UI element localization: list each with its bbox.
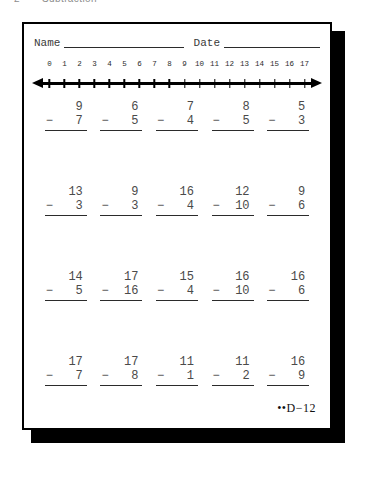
minuend: 17 <box>100 270 142 284</box>
problem-cell[interactable]: 11−1 <box>149 355 205 440</box>
minuend: 17 <box>45 355 87 369</box>
problem-cell[interactable]: 12−10 <box>205 185 261 270</box>
problem-cell[interactable]: 15−4 <box>149 270 205 355</box>
number-line-bar <box>42 82 312 85</box>
minus-operator: − <box>267 369 275 384</box>
minuend: 17 <box>100 355 142 369</box>
number-line-label: 0 <box>47 60 52 68</box>
problem-cell[interactable]: 6−5 <box>94 100 150 185</box>
subtraction-problem: 5−3 <box>267 100 309 131</box>
problem-cell[interactable]: 16−6 <box>260 270 316 355</box>
subtrahend-row: −4 <box>156 114 198 131</box>
page-header-title: Subtraction <box>42 0 97 4</box>
date-label: Date <box>194 37 220 49</box>
subtraction-problem: 11−1 <box>156 355 198 386</box>
subtrahend: 3 <box>131 199 138 214</box>
number-line-tick <box>64 79 65 88</box>
subtrahend: 6 <box>298 284 305 299</box>
subtrahend: 2 <box>242 369 249 384</box>
minuend: 6 <box>100 100 142 114</box>
subtrahend-row: −7 <box>45 369 87 386</box>
minus-operator: − <box>45 114 53 129</box>
minuend: 11 <box>212 355 254 369</box>
subtrahend-row: −10 <box>212 284 254 301</box>
subtrahend: 5 <box>76 284 83 299</box>
number-line-tick <box>199 79 200 88</box>
problem-row: 17−717−811−111−216−9 <box>38 355 316 440</box>
minuend: 9 <box>267 185 309 199</box>
name-write-line[interactable] <box>64 36 183 48</box>
number-line-label: 6 <box>137 60 142 68</box>
subtrahend-row: −7 <box>45 114 87 131</box>
subtrahend-row: −6 <box>267 284 309 301</box>
problem-cell[interactable]: 9−3 <box>94 185 150 270</box>
subtraction-problem: 7−4 <box>156 100 198 131</box>
subtraction-problem: 14−5 <box>45 270 87 301</box>
date-write-line[interactable] <box>224 36 320 48</box>
minus-operator: − <box>100 114 108 129</box>
subtrahend-row: −4 <box>156 199 198 216</box>
number-line-tick <box>79 79 80 88</box>
problem-cell[interactable]: 5−3 <box>260 100 316 185</box>
minuend: 16 <box>267 355 309 369</box>
minuend: 9 <box>100 185 142 199</box>
number-line-label: 2 <box>77 60 82 68</box>
subtrahend: 7 <box>76 369 83 384</box>
subtrahend-row: −5 <box>212 114 254 131</box>
minus-operator: − <box>45 284 53 299</box>
subtrahend-row: −3 <box>267 114 309 131</box>
minuend: 16 <box>212 270 254 284</box>
arrow-right-icon <box>311 78 322 88</box>
number-line-label: 7 <box>152 60 157 68</box>
minus-operator: − <box>212 199 220 214</box>
number-line-label: 15 <box>270 60 279 68</box>
subtrahend: 10 <box>235 284 249 299</box>
problem-cell[interactable]: 8−5 <box>205 100 261 185</box>
minus-operator: − <box>267 284 275 299</box>
problem-cell[interactable]: 16−4 <box>149 185 205 270</box>
subtraction-problem: 17−8 <box>100 355 142 386</box>
number-line-label: 12 <box>225 60 234 68</box>
problem-cell[interactable]: 13−3 <box>38 185 94 270</box>
number-line-label: 13 <box>240 60 249 68</box>
number-line-label: 5 <box>122 60 127 68</box>
subtrahend: 6 <box>298 199 305 214</box>
subtraction-problem: 6−5 <box>100 100 142 131</box>
minus-operator: − <box>45 199 53 214</box>
number-line-tick <box>94 79 95 88</box>
subtrahend-row: −5 <box>45 284 87 301</box>
problem-cell[interactable]: 17−8 <box>94 355 150 440</box>
footer-code: ••D−12 <box>277 401 316 416</box>
problem-cell[interactable]: 11−2 <box>205 355 261 440</box>
minus-operator: − <box>156 284 164 299</box>
subtraction-problem: 13−3 <box>45 185 87 216</box>
problem-cell[interactable]: 9−7 <box>38 100 94 185</box>
number-line-tick <box>259 79 260 88</box>
number-line-label: 16 <box>285 60 294 68</box>
minus-operator: − <box>100 284 108 299</box>
number-line-label: 3 <box>92 60 97 68</box>
subtrahend-row: −5 <box>100 114 142 131</box>
subtrahend: 3 <box>298 114 305 129</box>
subtraction-problem: 16−4 <box>156 185 198 216</box>
name-label: Name <box>34 37 60 49</box>
number-line-label: 8 <box>167 60 172 68</box>
number-line-label: 10 <box>195 60 204 68</box>
subtraction-problem: 16−6 <box>267 270 309 301</box>
minus-operator: − <box>267 114 275 129</box>
subtrahend-row: −1 <box>156 369 198 386</box>
number-line-label: 1 <box>62 60 67 68</box>
minus-operator: − <box>100 199 108 214</box>
page-header-number: 2 <box>14 0 20 4</box>
subtrahend: 9 <box>298 369 305 384</box>
problem-cell[interactable]: 17−16 <box>94 270 150 355</box>
problem-cell[interactable]: 9−6 <box>260 185 316 270</box>
minuend: 11 <box>156 355 198 369</box>
number-line-tick <box>289 79 290 88</box>
problem-cell[interactable]: 16−10 <box>205 270 261 355</box>
problem-cell[interactable]: 17−7 <box>38 355 94 440</box>
problem-cell[interactable]: 16−9 <box>260 355 316 440</box>
number-line-tick <box>154 79 155 88</box>
problem-cell[interactable]: 7−4 <box>149 100 205 185</box>
problem-cell[interactable]: 14−5 <box>38 270 94 355</box>
